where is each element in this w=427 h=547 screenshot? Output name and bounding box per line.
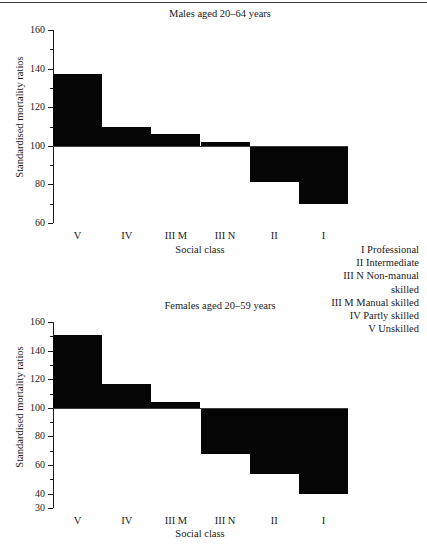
y-axis-tick-label: 30 (19, 503, 45, 513)
chart-title-males: Males aged 20–64 years (120, 8, 320, 19)
y-axis-tick-label: 60 (19, 460, 45, 470)
x-axis-tick-label: V (53, 231, 102, 242)
x-axis-tick-label: V (53, 516, 102, 527)
bar (201, 408, 250, 454)
y-axis-tick (48, 508, 53, 509)
chart-males: Males aged 20–64 years Standardised mort… (0, 8, 427, 258)
legend-entry: II Intermediate (331, 256, 419, 269)
x-axis-label-females: Social class (100, 528, 300, 539)
y-axis-tick-label: 100 (19, 141, 45, 151)
baseline-100 (53, 408, 348, 409)
y-axis-tick-label: 160 (19, 25, 45, 35)
y-axis-minor-tick (50, 422, 53, 423)
x-axis-tick-label: II (250, 231, 299, 242)
y-axis-tick (48, 30, 53, 31)
bar (102, 127, 151, 146)
x-axis-tick-label: III M (151, 516, 200, 527)
chart-title-females: Females aged 20–59 years (120, 300, 320, 311)
y-axis-tick (48, 436, 53, 437)
y-axis-tick-label: 60 (19, 218, 45, 228)
y-axis-tick (48, 465, 53, 466)
x-axis-tick-label: I (299, 231, 348, 242)
x-axis-tick-label: III N (201, 516, 250, 527)
y-axis-tick-label: 120 (19, 374, 45, 384)
plot-area-females: 30406080100120140160VIVIII MIII NIII (53, 322, 348, 508)
bar (102, 384, 151, 408)
y-axis-tick (48, 322, 53, 323)
bar (299, 408, 348, 494)
y-axis-tick (48, 69, 53, 70)
y-axis-tick-label: 40 (19, 489, 45, 499)
y-axis-minor-tick (50, 165, 53, 166)
y-axis-minor-tick (50, 451, 53, 452)
bar (53, 335, 102, 408)
y-axis-tick-label: 80 (19, 431, 45, 441)
bar (299, 146, 348, 204)
y-axis-tick (48, 223, 53, 224)
x-axis-tick-label: IV (102, 516, 151, 527)
x-axis-tick-label: I (299, 516, 348, 527)
plot-area-males: 6080100120140160VIVIII MIII NIII (53, 30, 348, 223)
figure-page: Males aged 20–64 years Standardised mort… (0, 0, 427, 547)
bar (250, 408, 299, 474)
legend-entry: skilled (331, 283, 419, 296)
chart-females: Females aged 20–59 years Standardised mo… (0, 300, 427, 547)
legend-entry: III N Non-manual (331, 269, 419, 282)
y-axis-minor-tick (50, 204, 53, 205)
x-axis-label-males: Social class (100, 244, 300, 255)
x-axis-tick-label: III M (151, 231, 200, 242)
y-axis-tick-label: 100 (19, 403, 45, 413)
legend-entry: I Professional (331, 243, 419, 256)
y-axis-tick-label: 80 (19, 179, 45, 189)
bar (151, 134, 200, 146)
page-top-rule (0, 2, 427, 3)
y-axis-tick-label: 140 (19, 64, 45, 74)
y-axis-tick-label: 140 (19, 346, 45, 356)
x-axis-tick-label: III N (201, 231, 250, 242)
y-axis-tick (48, 494, 53, 495)
y-axis-tick-label: 160 (19, 317, 45, 327)
x-axis-tick-label: II (250, 516, 299, 527)
y-axis-minor-tick (50, 479, 53, 480)
bar (53, 74, 102, 145)
y-axis-tick-label: 120 (19, 102, 45, 112)
y-axis-tick (48, 184, 53, 185)
x-axis-tick-label: IV (102, 231, 151, 242)
bar (250, 146, 299, 183)
y-axis-minor-tick (50, 49, 53, 50)
baseline-100 (53, 146, 348, 147)
